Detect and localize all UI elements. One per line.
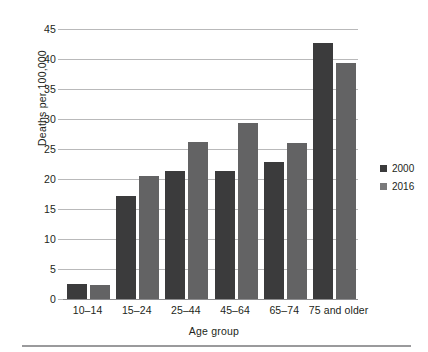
legend-item-2016: 2016: [380, 181, 428, 192]
x-tick-label-45–64: 45–64: [211, 305, 260, 316]
legend-swatch-2016-icon: [380, 183, 387, 190]
legend-swatch-2000-icon: [380, 165, 387, 172]
y-tick-label-45: 45: [30, 24, 56, 35]
bar-2016-75-and-older: [336, 63, 356, 299]
bar-group: [116, 29, 159, 299]
bar-group: [165, 29, 208, 299]
x-tick-label-10–14: 10–14: [63, 305, 112, 316]
bar-chart-figure: Deaths per 100,000 051015202530354045 10…: [0, 0, 428, 352]
y-tick-label-10: 10: [30, 234, 56, 245]
x-tick-label-75-and-older: 75 and older: [309, 305, 358, 316]
legend-label-2016: 2016: [392, 182, 414, 192]
bar-2016-25–44: [188, 142, 208, 299]
bar-2016-45–64: [238, 123, 258, 299]
x-axis-title: Age group: [0, 325, 428, 337]
plot-area: [63, 29, 358, 299]
y-tick-label-30: 30: [30, 114, 56, 125]
bar-2000-15–24: [116, 196, 136, 299]
x-tick-label-25–44: 25–44: [161, 305, 210, 316]
y-tick-label-0: 0: [30, 294, 56, 305]
y-tick-label-25: 25: [30, 144, 56, 155]
y-tick-label-35: 35: [30, 84, 56, 95]
legend-label-2000: 2000: [392, 164, 414, 174]
bar-group: [67, 29, 110, 299]
bar-2000-75-and-older: [313, 43, 333, 299]
bar-group: [264, 29, 307, 299]
chart-legend: 2000 2016: [380, 163, 428, 199]
bar-group: [215, 29, 258, 299]
x-tick-label-15–24: 15–24: [112, 305, 161, 316]
x-tick-label-65–74: 65–74: [260, 305, 309, 316]
bar-2000-45–64: [215, 171, 235, 299]
y-tick-label-40: 40: [30, 54, 56, 65]
legend-item-2000: 2000: [380, 163, 428, 174]
y-tick-label-20: 20: [30, 174, 56, 185]
bar-group: [313, 29, 356, 299]
bar-2016-10–14: [90, 285, 110, 299]
y-tick-label-15: 15: [30, 204, 56, 215]
footer-rule: [22, 345, 411, 347]
bar-2000-10–14: [67, 284, 87, 299]
bar-2016-15–24: [139, 176, 159, 299]
y-tick-label-5: 5: [30, 264, 56, 275]
gridline-0: [63, 299, 358, 300]
bar-2000-65–74: [264, 162, 284, 299]
bar-2000-25–44: [165, 171, 185, 299]
bar-2016-65–74: [287, 143, 307, 299]
